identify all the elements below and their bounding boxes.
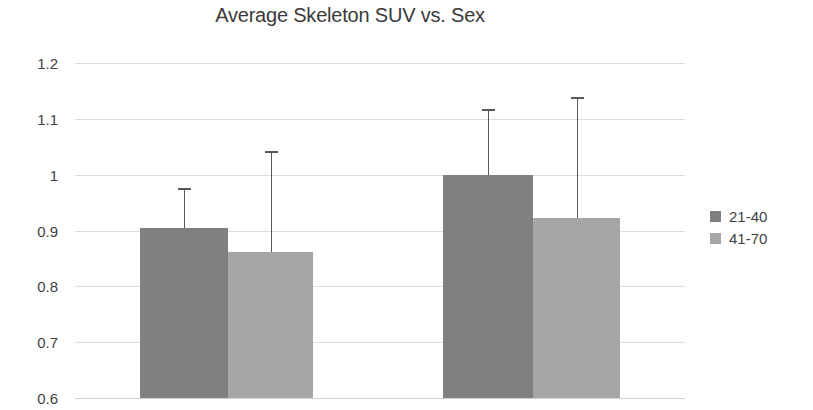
bar[interactable] xyxy=(140,228,228,398)
chart-container: Average Skeleton SUV vs. Sex 0.60.70.80.… xyxy=(0,0,813,410)
error-bar xyxy=(184,188,185,228)
y-axis-tick-label: 0.9 xyxy=(0,222,58,239)
error-bar-cap xyxy=(482,109,495,111)
gridline xyxy=(75,63,685,64)
y-axis-tick-label: 1.1 xyxy=(0,110,58,127)
chart-title: Average Skeleton SUV vs. Sex xyxy=(0,4,700,27)
gridline xyxy=(75,119,685,120)
legend-label: 21-40 xyxy=(729,208,767,225)
chart-legend: 21-4041-70 xyxy=(710,205,810,249)
error-bar-cap xyxy=(265,151,278,153)
error-bar-cap xyxy=(571,97,584,99)
bar[interactable] xyxy=(443,175,533,398)
error-bar-cap xyxy=(178,188,191,190)
error-bar xyxy=(488,109,489,175)
gridline xyxy=(75,398,685,399)
y-axis-tick-label: 0.6 xyxy=(0,390,58,407)
plot-area xyxy=(75,63,685,398)
legend-label: 41-70 xyxy=(729,230,767,247)
legend-item[interactable]: 41-70 xyxy=(710,227,810,249)
legend-swatch-icon xyxy=(710,211,721,222)
legend-item[interactable]: 21-40 xyxy=(710,205,810,227)
legend-swatch-icon xyxy=(710,233,721,244)
bar[interactable] xyxy=(228,252,313,398)
y-axis-tick-label: 1.2 xyxy=(0,55,58,72)
error-bar xyxy=(577,97,578,218)
y-axis-tick-labels: 0.60.70.80.911.11.2 xyxy=(0,63,58,398)
y-axis-tick-label: 0.7 xyxy=(0,334,58,351)
y-axis-tick-label: 0.8 xyxy=(0,278,58,295)
error-bar xyxy=(271,151,272,252)
y-axis-tick-label: 1 xyxy=(0,166,58,183)
gridline xyxy=(75,175,685,176)
bar[interactable] xyxy=(533,218,620,398)
